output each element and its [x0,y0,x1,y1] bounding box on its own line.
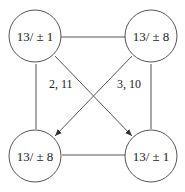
node-label-bottom-left: 13/ ± 8 [17,149,54,164]
node-label-top-left: 13/ ± 1 [17,29,54,44]
node-bottom-right: 13/ ± 1 [125,130,177,182]
node-label-top-right: 13/ ± 8 [133,29,170,44]
node-label-bottom-right: 13/ ± 1 [133,149,170,164]
edge-label-tr-bl: 3, 10 [117,77,141,91]
diagram-canvas: 2, 11 3, 10 13/ ± 1 13/ ± 8 13/ ± 8 13/ … [0,0,185,192]
node-top-right: 13/ ± 8 [125,10,177,62]
edge-label-tl-br: 2, 11 [49,77,73,91]
node-top-left: 13/ ± 1 [9,10,61,62]
node-bottom-left: 13/ ± 8 [9,130,61,182]
